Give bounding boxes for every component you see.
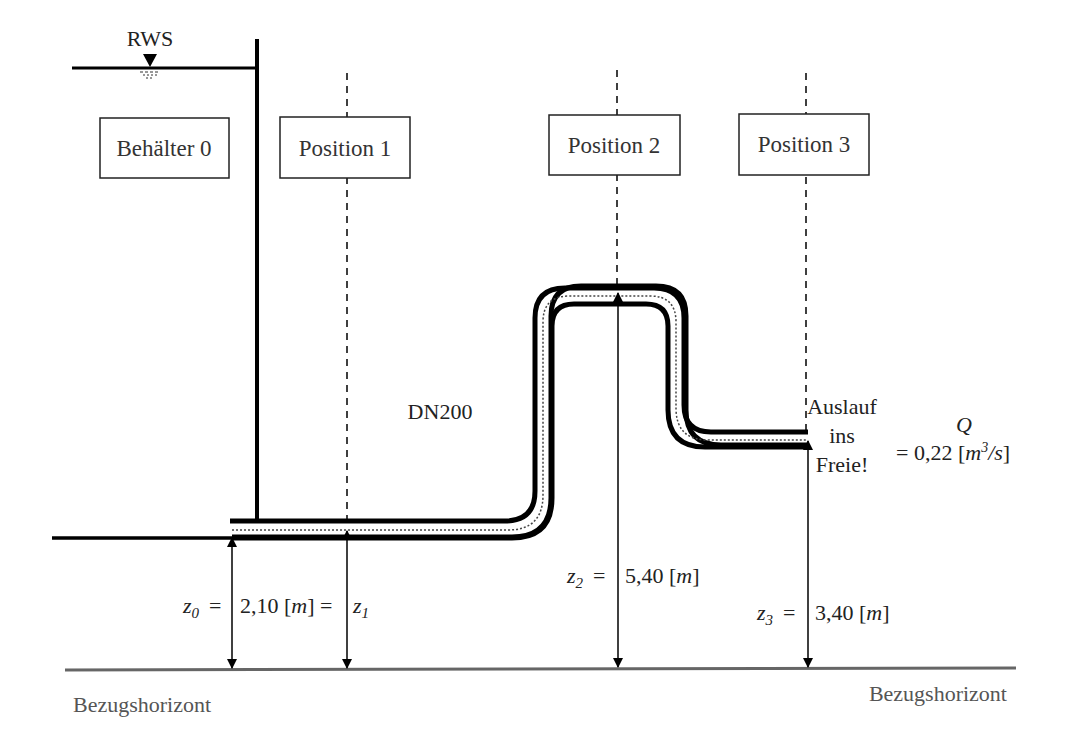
z3-label: z3= bbox=[756, 600, 795, 628]
position-1-box: Position 1 bbox=[280, 117, 410, 178]
container-box: Behälter 0 bbox=[100, 118, 229, 178]
pipe-centerline bbox=[232, 296, 806, 530]
z3-value: 3,40 [m] bbox=[815, 600, 890, 625]
datum-line bbox=[65, 668, 1016, 670]
z2-value: 5,40 [m] bbox=[625, 563, 700, 588]
z01-value: 2,10 [m] = bbox=[240, 593, 332, 618]
outlet-label-line2: ins bbox=[829, 423, 855, 448]
water-level-label: RWS bbox=[127, 26, 173, 51]
position-3-box: Position 3 bbox=[739, 114, 869, 175]
pipe-dn200 bbox=[232, 286, 808, 537]
pipe-system-diagram: RWS Behälter 0 Position 1 Position 2 Pos… bbox=[0, 0, 1080, 735]
position-3-label: Position 3 bbox=[758, 132, 851, 157]
water-level-triangle-icon bbox=[143, 54, 157, 67]
pipe-lower-wall bbox=[232, 304, 808, 538]
datum-label-right: Bezugshorizont bbox=[869, 681, 1007, 706]
position-2-box: Position 2 bbox=[549, 115, 680, 175]
pipe-label: DN200 bbox=[408, 399, 473, 424]
datum-label-left: Bezugshorizont bbox=[73, 692, 211, 717]
z0-label: z0= bbox=[182, 593, 221, 621]
flow-symbol: Q bbox=[956, 412, 972, 437]
flow-value: = 0,22 [m3/s] bbox=[896, 440, 1010, 465]
water-level-hatch-icon bbox=[140, 72, 160, 78]
position-2-label: Position 2 bbox=[568, 133, 661, 158]
z2-label: z2= bbox=[566, 563, 605, 591]
position-1-label: Position 1 bbox=[299, 136, 392, 161]
container-label: Behälter 0 bbox=[116, 136, 211, 161]
z1-label: z1 bbox=[352, 593, 369, 621]
pipe-upper-wall bbox=[230, 288, 808, 521]
outlet-label-line3: Freie! bbox=[816, 452, 869, 477]
outlet-label-line1: Auslauf bbox=[807, 394, 877, 419]
